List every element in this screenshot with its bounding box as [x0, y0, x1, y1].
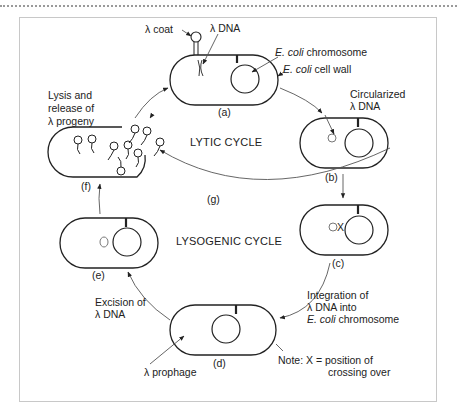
lambda-life-cycle-diagram: λ coat λ DNA E. coli chromosome E. coli … — [0, 0, 457, 417]
stage-label-g: (g) — [207, 193, 220, 205]
label-integration-1: Integration of — [307, 289, 368, 301]
cell-a — [170, 32, 278, 105]
cell-e — [60, 218, 158, 268]
arrow-a-to-b — [280, 88, 322, 113]
cell-d — [170, 305, 276, 355]
pointer-note — [276, 344, 283, 351]
stage-label-e: (e) — [92, 269, 105, 281]
label-lambda-dna: λ DNA — [210, 22, 240, 34]
pointer-chromosome — [252, 57, 278, 72]
label-lysis-2: release of — [48, 102, 94, 114]
stage-label-c: (c) — [332, 257, 344, 269]
arrow-e-to-f — [99, 184, 100, 214]
pointer-lambda-dna — [203, 34, 218, 64]
label-circularized-1: Circularized — [350, 88, 406, 100]
cell-f — [48, 125, 164, 177]
stage-label-f: (f) — [81, 180, 91, 192]
label-excision-2: λ DNA — [95, 308, 125, 320]
label-integration-3: E. coli chromosome — [307, 313, 399, 325]
stage-label-a: (a) — [218, 106, 231, 118]
pointer-lambda-coat — [182, 30, 191, 36]
lysogenic-cycle-title: LYSOGENIC CYCLE — [176, 235, 282, 247]
label-excision-1: Excision of — [95, 296, 146, 308]
stage-label-b: (b) — [325, 171, 338, 183]
label-prophage: λ prophage — [144, 366, 197, 378]
label-lysis-3: λ progeny — [48, 115, 95, 127]
stage-label-d: (d) — [213, 357, 226, 369]
label-note-1: Note: X = position of — [278, 354, 373, 366]
label-lysis-1: Lysis and — [48, 89, 92, 101]
label-ecoli-cell-wall: E. coli cell wall — [283, 63, 351, 75]
arrow-f-to-a — [135, 88, 168, 118]
label-lambda-coat: λ coat — [145, 23, 173, 35]
crossover-mark: X — [337, 221, 344, 233]
arrow-g-to-f — [160, 148, 390, 180]
label-note-2: crossing over — [328, 366, 391, 378]
cell-b — [300, 118, 388, 168]
label-ecoli-chromosome: E. coli chromosome — [275, 46, 367, 58]
label-circularized-2: λ DNA — [350, 100, 380, 112]
lytic-cycle-title: LYTIC CYCLE — [190, 136, 262, 148]
pointer-prophage — [150, 336, 184, 364]
label-integration-2: λ DNA into — [307, 301, 357, 313]
